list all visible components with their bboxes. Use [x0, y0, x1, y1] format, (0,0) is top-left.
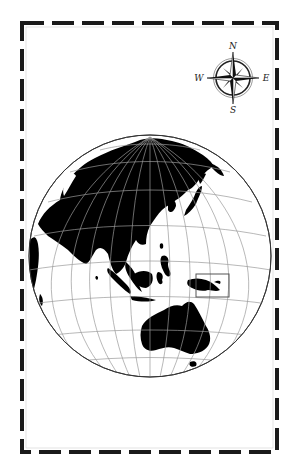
compass-north-label: N	[228, 41, 238, 51]
compass-south-label: S	[230, 105, 236, 115]
compass-east-label: E	[262, 73, 270, 83]
compass-rose: N E S W	[188, 40, 278, 115]
compass-west-label: W	[194, 73, 204, 83]
